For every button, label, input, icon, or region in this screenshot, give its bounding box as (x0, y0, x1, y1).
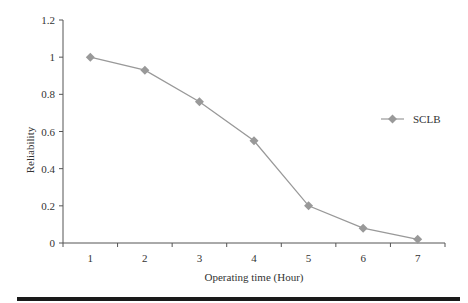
x-tick-label: 4 (251, 252, 257, 264)
y-tick-label: 0.6 (41, 126, 55, 138)
bottom-rule (17, 297, 460, 301)
legend: SCLB (381, 113, 441, 125)
data-point-diamond-icon (413, 235, 422, 244)
data-point-diamond-icon (86, 53, 95, 62)
y-tick-label: 0.2 (41, 200, 55, 212)
y-axis-title: Reliability (24, 126, 36, 173)
legend-diamond-icon (388, 115, 397, 124)
x-tick-label: 3 (197, 252, 203, 264)
data-point-diamond-icon (195, 97, 204, 106)
x-axis-title: Operating time (Hour) (205, 271, 304, 284)
reliability-chart: 00.20.40.60.811.2 1234567 SCLB Operating… (0, 0, 468, 303)
x-tick-label: 1 (88, 252, 94, 264)
x-tick-label: 5 (306, 252, 312, 264)
x-axis: 1234567 (63, 243, 445, 264)
data-point-diamond-icon (359, 224, 368, 233)
y-tick-label: 1 (50, 51, 56, 63)
plot-area (86, 53, 422, 244)
x-tick-label: 2 (142, 252, 148, 264)
y-tick-label: 1.2 (41, 14, 55, 26)
x-tick-label: 7 (415, 252, 421, 264)
y-axis: 00.20.40.60.811.2 (41, 14, 63, 249)
data-point-diamond-icon (140, 66, 149, 75)
y-tick-label: 0.8 (41, 88, 55, 100)
y-tick-label: 0 (50, 237, 56, 249)
legend-label: SCLB (413, 113, 441, 125)
x-tick-label: 6 (360, 252, 366, 264)
series-line-sclb (90, 57, 417, 239)
y-tick-label: 0.4 (41, 163, 55, 175)
